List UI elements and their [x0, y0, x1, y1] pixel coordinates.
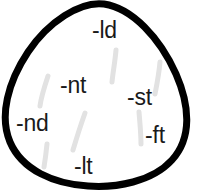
cluster-label-nd: -nd [16, 112, 49, 135]
cluster-label-nt: -nt [60, 74, 86, 97]
cluster-label-ft: -ft [145, 124, 165, 147]
cluster-label-st: -st [127, 86, 152, 109]
cluster-label-lt: -lt [74, 155, 93, 178]
tick-mark-lower-right [139, 112, 141, 144]
cluster-label-ld: -ld [92, 19, 117, 42]
consonant-cluster-diagram: -ld -nt -st -nd -ft -lt [0, 0, 198, 190]
tick-mark-lower-left [44, 144, 47, 167]
